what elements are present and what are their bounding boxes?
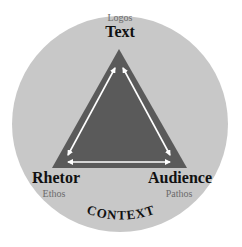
text-label: Text [105,23,135,41]
pathos-label: Pathos [166,188,193,199]
ethos-label: Ethos [43,188,66,199]
logos-label: Logos [108,12,133,23]
rhetor-label: Rhetor [32,169,80,187]
audience-label: Audience [148,169,212,187]
